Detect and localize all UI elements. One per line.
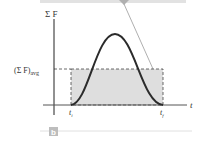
leader-line [124,4,153,69]
force-time-diagram: Σ F t (Σ F)avg ti tf b [0,0,202,144]
x-axis-label: t [190,100,193,110]
t-final-label: tf [160,108,164,118]
y-axis-label: Σ F [45,9,58,19]
top-bar [40,0,186,3]
t-initial-label: ti [69,108,73,118]
panel-label: b [51,128,56,137]
avg-force-label: (Σ F)avg [14,66,39,76]
